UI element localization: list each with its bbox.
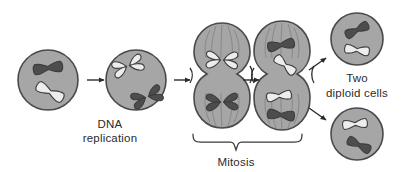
cell-membrane (194, 23, 250, 128)
cell-membrane (331, 13, 383, 65)
cell-membrane (18, 50, 78, 110)
dna-replication-label-line1: DNA (98, 118, 123, 130)
stage-mitosis-anaphase-cell (190, 23, 254, 128)
stage-parent-cell (18, 50, 78, 110)
arrow-to-bottom-daughter (309, 108, 326, 120)
mitosis-label: Mitosis (217, 156, 254, 168)
diagram-canvas: DNA replication Mitosis Two diploid cell… (0, 0, 408, 172)
stage-daughter-cell-top (331, 13, 383, 65)
mitosis-diagram: DNA replication Mitosis Two diploid cell… (0, 0, 408, 172)
dna-replication-label-line2: replication (83, 132, 138, 144)
mitosis-brace (193, 134, 302, 150)
cleavage-furrow-left-icon (190, 68, 192, 83)
two-diploid-cells-label-line2: diploid cells (326, 87, 388, 99)
stage-daughter-cell-bottom (331, 108, 383, 160)
stage-mitosis-telophase-cell (250, 21, 314, 130)
cell-membrane (331, 108, 383, 160)
stage-replicated-cell (106, 50, 166, 110)
arrow-to-top-daughter (309, 58, 326, 70)
two-diploid-cells-label-line1: Two (346, 72, 368, 84)
